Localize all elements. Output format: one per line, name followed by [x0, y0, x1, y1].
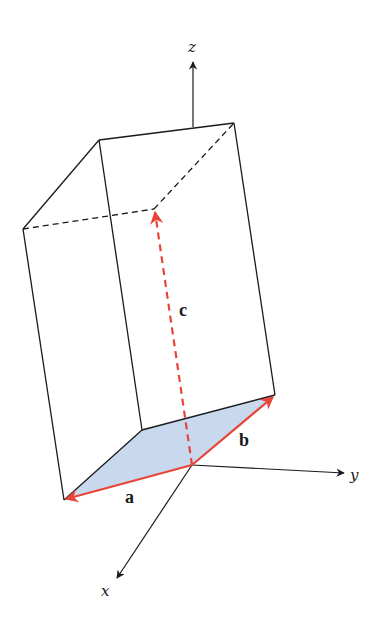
x-axis-label: x	[101, 582, 110, 600]
vector-c-label: c	[179, 300, 187, 320]
y-axis	[192, 465, 344, 473]
vector-a-label: a	[125, 487, 134, 507]
z-axis-label: z	[187, 38, 196, 56]
top-hidden-edge-right	[154, 123, 234, 209]
y-axis-label: y	[349, 466, 359, 484]
edge-left	[23, 229, 64, 500]
top-edge-left	[23, 140, 99, 229]
parallelepiped-diagram: z y x a b c	[0, 0, 381, 621]
edge-right	[234, 123, 275, 395]
top-edge-back	[99, 123, 234, 140]
vector-b-label: b	[239, 430, 249, 450]
top-hidden-edge-left	[23, 209, 154, 229]
edge-inner	[99, 140, 142, 430]
